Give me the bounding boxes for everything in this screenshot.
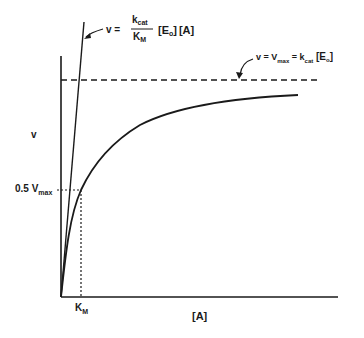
- asymptote-annotation-arrow: [240, 59, 253, 75]
- y-axis-label: v: [31, 129, 37, 140]
- half-vmax-label: 0.5 Vmax: [15, 183, 52, 196]
- x-axis-label: [A]: [192, 310, 208, 322]
- saturation-curve: [61, 95, 298, 297]
- km-label: KM: [75, 302, 88, 315]
- svg-text:v =: v =: [106, 24, 120, 35]
- arrowhead-icon: [236, 72, 243, 79]
- svg-text:v = Vmax = kcat [Eo]: v = Vmax = kcat [Eo]: [256, 51, 333, 64]
- initial-slope-equation: v = kcat KM [Eo][A]: [106, 14, 195, 43]
- arrowhead-icon: [84, 33, 91, 39]
- svg-text:KM: KM: [133, 31, 146, 43]
- vmax-equation: v = Vmax = kcat [Eo]: [256, 51, 333, 64]
- svg-text:[Eo][A]: [Eo][A]: [158, 24, 195, 37]
- kinetics-diagram: v 0.5 Vmax KM [A] v = kcat KM [Eo][A] v …: [0, 0, 364, 338]
- svg-text:kcat: kcat: [132, 14, 148, 26]
